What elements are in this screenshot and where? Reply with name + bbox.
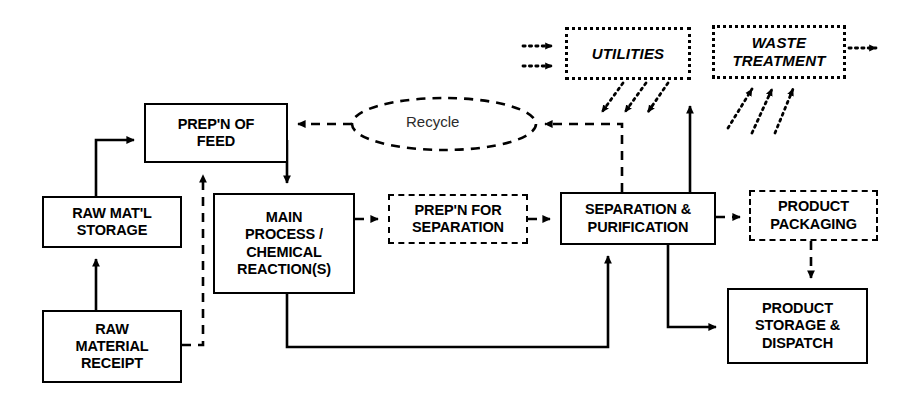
node-prepn-of-feed[interactable]: PREP'N OF FEED [144, 103, 288, 163]
connector-separation-to-product-storage [668, 245, 716, 327]
node-separation-purification[interactable]: SEPARATION & PURIFICATION [560, 192, 716, 245]
connector-storage-to-prep [96, 140, 134, 196]
connector-separation-to-recycle-dashed [545, 124, 622, 192]
connector-waste-in-3 [775, 89, 793, 133]
node-label-utilities: UTILITIES [592, 45, 665, 63]
node-raw-material-receipt[interactable]: RAW MATERIAL RECEIPT [42, 310, 182, 383]
node-label-product-packaging: PRODUCT PACKAGING [770, 198, 857, 232]
connector-utilities-out-1 [602, 83, 623, 112]
process-flow-diagram: PREP'N OF FEED RAW MAT'L STORAGE RAW MAT… [0, 0, 913, 401]
node-raw-matl-storage[interactable]: RAW MAT'L STORAGE [42, 196, 182, 248]
node-product-storage-dispatch[interactable]: PRODUCT STORAGE & DISPATCH [727, 288, 868, 364]
node-label-raw-matl-storage: RAW MAT'L STORAGE [72, 205, 152, 239]
node-label-product-storage-dispatch: PRODUCT STORAGE & DISPATCH [755, 300, 840, 351]
node-label-waste-treatment: WASTE TREATMENT [732, 34, 825, 69]
node-label-prepn-of-feed: PREP'N OF FEED [178, 116, 255, 150]
recycle-loop-label: Recycle [406, 113, 459, 130]
node-waste-treatment[interactable]: WASTE TREATMENT [712, 25, 846, 79]
connector-waste-in-2 [752, 89, 772, 133]
node-label-separation-purification: SEPARATION & PURIFICATION [585, 201, 691, 235]
node-product-packaging[interactable]: PRODUCT PACKAGING [749, 190, 878, 241]
node-prepn-for-separation[interactable]: PREP'N FOR SEPARATION [388, 194, 528, 244]
node-label-main-process: MAIN PROCESS / CHEMICAL REACTION(S) [237, 209, 331, 277]
node-main-process[interactable]: MAIN PROCESS / CHEMICAL REACTION(S) [213, 193, 355, 294]
connector-receipt-to-prep-dashed [182, 175, 203, 345]
node-utilities[interactable]: UTILITIES [565, 27, 691, 80]
node-label-raw-material-receipt: RAW MATERIAL RECEIPT [75, 321, 148, 372]
node-label-prepn-for-separation: PREP'N FOR SEPARATION [412, 202, 504, 236]
connector-waste-in-1 [728, 89, 752, 128]
connector-utilities-out-3 [648, 83, 668, 112]
connector-utilities-out-2 [625, 83, 646, 112]
